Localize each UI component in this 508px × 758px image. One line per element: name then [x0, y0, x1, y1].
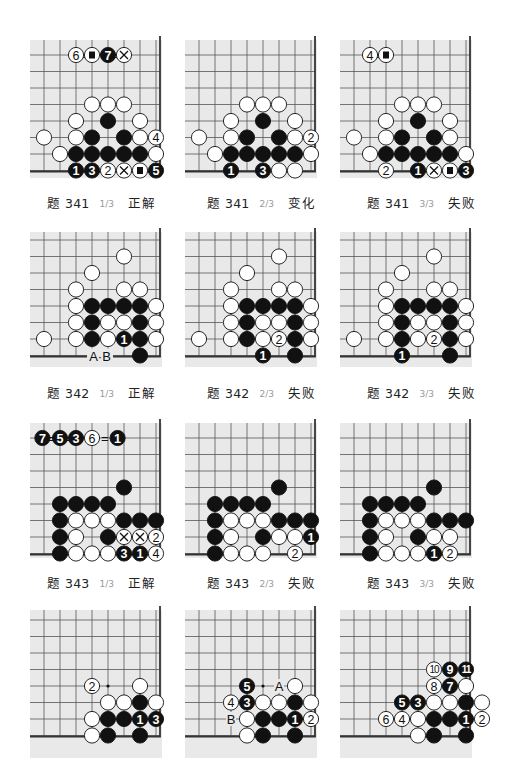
white-stone: [271, 315, 286, 330]
move-number: 1: [73, 164, 80, 178]
white-stone: [458, 298, 473, 313]
move-number: 2: [479, 713, 486, 727]
caption-prefix: 题: [47, 383, 60, 402]
black-stone: [116, 146, 131, 161]
white-stone: [84, 728, 99, 743]
result-label: 正解: [128, 573, 156, 592]
white-stone: [255, 546, 270, 561]
white-stone: [426, 695, 441, 710]
caption-341-2: 题 341 2/3 变化: [207, 193, 316, 212]
caption-341-1: 题 341 1/3 正解: [47, 193, 156, 212]
white-stone: [132, 130, 147, 145]
diagram-fraction: 1/3: [99, 579, 113, 589]
caption-343-3: 题 343 3/3 失败: [367, 573, 476, 592]
move-number: 3: [73, 432, 80, 446]
white-stone: [426, 315, 441, 330]
white-stone: [303, 695, 318, 710]
black-stone: [255, 496, 270, 511]
white-stone: [148, 315, 163, 330]
black-stone: [394, 130, 409, 145]
white-stone: [394, 265, 409, 280]
black-stone: [394, 298, 409, 313]
white-stone: [239, 728, 254, 743]
white-stone: [191, 130, 206, 145]
black-stone: [442, 315, 457, 330]
white-stone: [287, 163, 302, 178]
black-stone: [287, 513, 302, 528]
black-stone: [68, 496, 83, 511]
black-stone: [207, 529, 222, 544]
black-stone: [394, 315, 409, 330]
result-label: 正解: [128, 193, 156, 212]
go-board-341-3: =4213: [340, 36, 474, 178]
black-stone: [239, 298, 254, 313]
black-stone: [207, 496, 222, 511]
black-stone: [287, 298, 302, 313]
white-stone: [52, 146, 67, 161]
boards-canvas: ==6741325213=4213A·B12121===753612314121…: [0, 0, 508, 758]
result-label: 失败: [288, 573, 316, 592]
black-stone: [223, 496, 238, 511]
diagram-fraction: 1/3: [99, 389, 113, 399]
move-number: 7: [447, 680, 454, 694]
caption-342-1: 题 342 1/3 正解: [47, 383, 156, 402]
black-stone: [271, 480, 286, 495]
white-stone: [410, 546, 425, 561]
black-stone: [100, 298, 115, 313]
black-stone: [68, 146, 83, 161]
white-stone: [378, 331, 393, 346]
white-stone: [255, 315, 270, 330]
white-stone: [362, 146, 377, 161]
white-stone: [378, 513, 393, 528]
point-label: A: [275, 679, 284, 694]
black-stone: [426, 146, 441, 161]
white-stone: [148, 146, 163, 161]
white-stone: [223, 113, 238, 128]
white-stone: [100, 546, 115, 561]
white-stone: [442, 695, 457, 710]
caption-prefix: 题: [207, 383, 220, 402]
black-stone: [287, 146, 302, 161]
black-stone: [239, 331, 254, 346]
white-stone: [426, 282, 441, 297]
white-stone: [303, 315, 318, 330]
problem-number: 343: [385, 576, 409, 591]
go-board-344-1: 213: [30, 606, 164, 758]
white-stone: [271, 163, 286, 178]
white-stone: [132, 113, 147, 128]
move-number: 2: [308, 713, 315, 727]
white-stone: [271, 97, 286, 112]
black-stone: [84, 298, 99, 313]
square-mark-icon: [447, 167, 453, 174]
white-stone: [287, 130, 302, 145]
white-stone: [474, 695, 489, 710]
caption-343-2: 题 343 2/3 失败: [207, 573, 316, 592]
move-number: 2: [89, 680, 96, 694]
white-stone: [442, 113, 457, 128]
diagram-fraction: 2/3: [259, 199, 273, 209]
black-stone: [132, 348, 147, 363]
white-stone: [271, 282, 286, 297]
black-stone: [271, 711, 286, 726]
black-stone: [426, 513, 441, 528]
move-number: 3: [463, 164, 470, 178]
black-stone: [442, 146, 457, 161]
result-label: 失败: [448, 383, 476, 402]
black-stone: [84, 146, 99, 161]
black-stone: [442, 711, 457, 726]
white-stone: [303, 298, 318, 313]
go-board-341-1: ==6741325: [30, 36, 164, 178]
black-stone: [52, 546, 67, 561]
black-stone: [287, 728, 302, 743]
problem-number: 342: [225, 386, 249, 401]
black-stone: [116, 711, 131, 726]
black-stone: [132, 331, 147, 346]
point-marker: [106, 684, 109, 687]
move-number: 3: [153, 713, 160, 727]
black-stone: [148, 513, 163, 528]
black-stone: [239, 315, 254, 330]
move-number: 4: [153, 131, 160, 145]
move-number: 1: [308, 531, 315, 545]
go-board-343-1: ===753612314: [30, 419, 164, 561]
black-stone: [426, 711, 441, 726]
